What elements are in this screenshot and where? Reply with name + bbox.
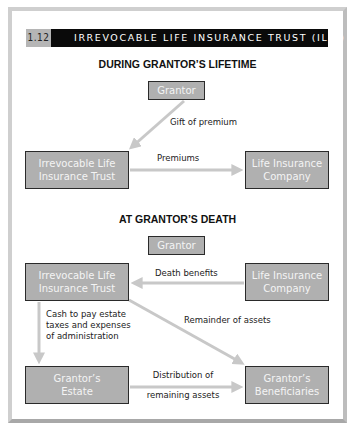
estate-node: Grantor’s Estate	[25, 366, 129, 404]
cash-label: Cash to pay estate taxes and expenses of…	[46, 309, 131, 342]
node-label-line2: Company	[263, 282, 311, 295]
node-label-line2: Beneficiaries	[255, 385, 319, 398]
death-heading: AT GRANTOR’S DEATH	[0, 213, 355, 225]
premiums-label: Premiums	[157, 153, 199, 164]
cash-label-line2: taxes and expenses	[46, 320, 131, 331]
node-label-line1: Grantor’s	[54, 372, 101, 385]
distribution-label-line2: remaining assets	[143, 390, 223, 401]
node-label-line2: Company	[263, 170, 311, 183]
gift-of-premium-label: Gift of premium	[170, 117, 237, 128]
death-ilit-node: Irrevocable Life Insurance Trust	[25, 263, 129, 301]
node-label-line1: Grantor’s	[264, 372, 311, 385]
node-label-line1: Life Insurance	[252, 269, 322, 282]
node-label-line1: Irrevocable Life	[38, 157, 115, 170]
node-label: Grantor	[157, 239, 195, 252]
remainder-arrow	[129, 300, 240, 362]
lifetime-insurer-node: Life Insurance Company	[245, 151, 329, 189]
node-label-line1: Irrevocable Life	[38, 269, 115, 282]
node-label-line2: Insurance Trust	[39, 170, 115, 183]
node-label-line2: Insurance Trust	[39, 282, 115, 295]
lifetime-ilit-node: Irrevocable Life Insurance Trust	[25, 151, 129, 189]
node-label-line2: Estate	[61, 385, 93, 398]
death-grantor-node: Grantor	[148, 236, 205, 255]
node-label-line1: Life Insurance	[252, 157, 322, 170]
beneficiaries-node: Grantor’s Beneficiaries	[245, 366, 329, 404]
death-insurer-node: Life Insurance Company	[245, 263, 329, 301]
distribution-label-line1: Distribution of	[148, 370, 218, 381]
cash-label-line1: Cash to pay estate	[46, 309, 131, 320]
lifetime-grantor-node: Grantor	[148, 81, 205, 100]
death-benefits-label: Death benefits	[155, 268, 218, 279]
node-label: Grantor	[157, 84, 195, 97]
lifetime-heading: DURING GRANTOR’S LIFETIME	[0, 58, 355, 70]
cash-label-line3: of administration	[46, 331, 131, 342]
remainder-label: Remainder of assets	[184, 315, 271, 326]
